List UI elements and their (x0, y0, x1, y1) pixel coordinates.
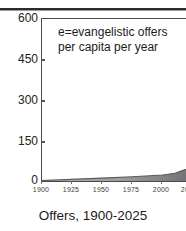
y-tick-label-450: 450 (2, 53, 38, 65)
y-tick-label-300: 300 (2, 94, 38, 106)
x-tick-label-2025: 2025 (181, 186, 186, 194)
chart-annotation: e=evangelistic offers per capita per yea… (58, 25, 168, 54)
x-tick-mark-1950 (101, 181, 102, 184)
x-tick-mark-1900 (41, 181, 42, 184)
x-tick-label-1975: 1975 (123, 186, 139, 194)
x-tick-mark-2000 (161, 181, 162, 184)
x-tick-label-1925: 1925 (63, 186, 79, 194)
x-tick-label-2000: 2000 (153, 186, 169, 194)
x-tick-mark-1925 (71, 181, 72, 184)
x-tick-mark-1975 (131, 181, 132, 184)
y-axis-tick-labels: 600 450 300 150 0 (0, 0, 38, 231)
x-tick-label-1900: 1900 (33, 186, 49, 194)
y-tick-mark-300 (41, 100, 45, 102)
area-fill (41, 167, 186, 181)
y-tick-label-0: 0 (2, 174, 38, 186)
x-tick-label-1950: 1950 (93, 186, 109, 194)
y-tick-mark-450 (41, 59, 45, 61)
chart-caption: Offers, 1900-2025 (0, 208, 186, 224)
y-tick-label-150: 150 (2, 135, 38, 147)
y-tick-mark-150 (41, 141, 45, 143)
chart-figure: 600 450 300 150 0 1900 1925 1950 1975 20… (0, 0, 186, 231)
y-tick-label-600: 600 (2, 12, 38, 24)
